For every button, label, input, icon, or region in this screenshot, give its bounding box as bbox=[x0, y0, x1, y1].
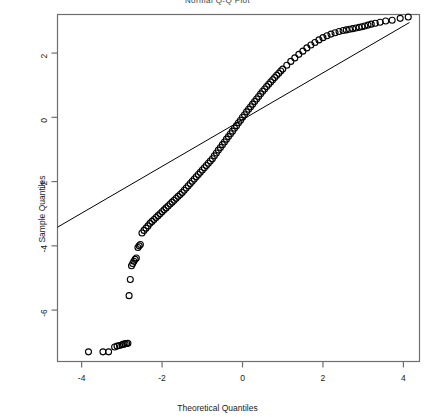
data-point bbox=[288, 58, 294, 64]
data-point bbox=[292, 55, 298, 61]
qq-plot-figure: Normal Q-Q Plot Sample Quantiles Theoret… bbox=[0, 0, 435, 417]
data-point bbox=[300, 48, 306, 54]
data-point bbox=[296, 51, 302, 57]
y-tick-label: -2 bbox=[40, 181, 50, 189]
y-tick-label: 2 bbox=[40, 53, 50, 58]
x-tick-label: -2 bbox=[158, 373, 166, 383]
data-point bbox=[397, 15, 403, 21]
x-axis-ticks: -4-2024 bbox=[78, 362, 406, 383]
data-point bbox=[332, 30, 338, 36]
data-point bbox=[85, 349, 91, 355]
x-tick-label: 0 bbox=[240, 373, 245, 383]
data-points bbox=[85, 14, 411, 355]
data-point bbox=[127, 277, 133, 283]
data-point bbox=[389, 17, 395, 23]
data-point bbox=[336, 29, 342, 35]
y-tick-label: -6 bbox=[40, 309, 50, 317]
x-tick-label: 4 bbox=[401, 373, 406, 383]
x-tick-label: -4 bbox=[78, 373, 86, 383]
plot-canvas: -4-2024 20-2-4-6 bbox=[0, 0, 435, 417]
data-point bbox=[126, 293, 132, 299]
y-axis-ticks: 20-2-4-6 bbox=[40, 53, 58, 317]
x-tick-label: 2 bbox=[321, 373, 326, 383]
axes-frame bbox=[58, 15, 420, 362]
y-tick-label: 0 bbox=[40, 118, 50, 123]
data-point bbox=[383, 18, 389, 24]
y-tick-label: -4 bbox=[40, 245, 50, 253]
